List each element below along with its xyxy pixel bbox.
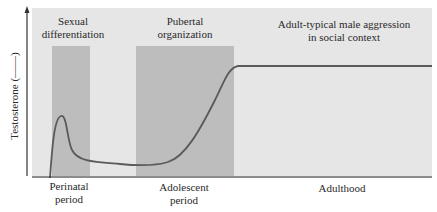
phase-label-sexual-line2: differentiation (42, 28, 105, 40)
period-label-adulthood: Adulthood (318, 182, 366, 194)
testosterone-timeline-diagram: Testosterone (——) Sexual differentiation… (0, 0, 437, 212)
period-label-adolescent-line1: Adolescent (159, 181, 208, 193)
phase-label-pubertal-line2: organization (158, 28, 213, 40)
period-label-perinatal-line2: period (55, 193, 84, 205)
pubertal-organization-band (136, 46, 234, 176)
phase-label-pubertal-line1: Pubertal (167, 15, 204, 27)
sexual-differentiation-band (52, 46, 90, 176)
phase-label-adult-line1: Adult-typical male aggression (278, 18, 411, 30)
phase-label-sexual-line1: Sexual (58, 15, 88, 27)
period-label-adolescent-line2: period (170, 194, 199, 206)
y-axis-label: Testosterone (——) (8, 52, 21, 140)
period-label-perinatal-line1: Perinatal (49, 180, 88, 192)
y-axis-arrow-icon (25, 6, 30, 13)
phase-label-adult-line2: in social context (308, 31, 380, 43)
